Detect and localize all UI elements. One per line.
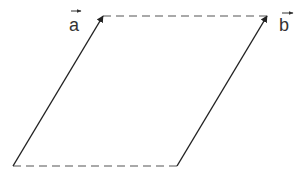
vector-b-arrow xyxy=(177,16,267,166)
label-a: a xyxy=(69,11,81,35)
svg-text:a: a xyxy=(69,15,80,35)
label-b: b xyxy=(279,13,293,35)
parallelogram-diagram: a b xyxy=(0,0,306,171)
vector-a-arrow xyxy=(13,16,103,166)
svg-text:b: b xyxy=(279,15,289,35)
